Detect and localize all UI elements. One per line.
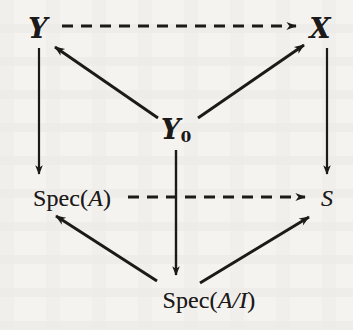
arrow-SpecAI-to-S xyxy=(200,217,309,283)
arrow-layer: X --> S --> xyxy=(0,0,353,330)
arrow-SpecAI-to-SpecA xyxy=(56,216,157,281)
node-S-label: S xyxy=(321,185,333,211)
node-Y0-base: Y xyxy=(161,114,180,145)
node-X: X xyxy=(310,15,331,42)
arrow-Y0-to-Y xyxy=(55,47,158,118)
node-SpecA-prefix: Spec( xyxy=(33,185,88,211)
arrow-Y0-to-X xyxy=(198,45,304,118)
node-Y-label: Y xyxy=(28,13,47,44)
node-SpecAI-suffix: ) xyxy=(247,287,255,313)
node-SpecA-ring: A xyxy=(88,185,103,211)
node-SpecAI-quotient: A/I xyxy=(218,287,248,313)
node-SpecAI: Spec(A/I) xyxy=(163,288,256,312)
node-Y0-subscript: 0 xyxy=(181,129,191,147)
node-SpecA-suffix: ) xyxy=(103,185,111,211)
node-SpecA: Spec(A) xyxy=(33,186,111,210)
node-SpecAI-prefix: Spec( xyxy=(163,287,218,313)
node-Y0: Y0 xyxy=(161,116,191,145)
node-Y: Y xyxy=(28,15,47,42)
node-X-label: X xyxy=(310,13,331,44)
node-S: S xyxy=(321,186,333,210)
commutative-diagram: X --> S --> Y X Y0 Spec(A) S Spec(A/I) xyxy=(0,0,353,330)
